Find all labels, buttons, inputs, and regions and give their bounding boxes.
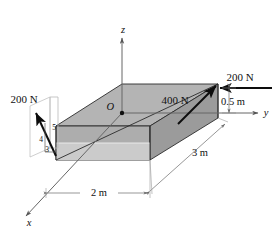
force-200n-right-label: 200 N	[226, 71, 253, 83]
x-axis-label: x	[26, 217, 32, 228]
force-400n-label: 400 N	[161, 94, 188, 106]
slope-label-vertical: 4	[39, 135, 43, 144]
mechanics-diagram: z y x O 200 N 400 N	[0, 0, 278, 236]
origin-label: O	[106, 101, 114, 112]
slope-label-hypotenuse: 5	[52, 123, 56, 132]
origin-dot	[120, 111, 124, 115]
dimension-height: 0.5 m	[221, 88, 245, 113]
figure-canvas: z y x O 200 N 400 N	[0, 0, 278, 236]
dimension-length-ext-far	[218, 118, 228, 122]
dimension-length-label: 3 m	[192, 147, 208, 158]
block-front-lower-strip	[56, 143, 150, 160]
force-200n-right: 200 N	[220, 71, 272, 88]
dimension-width: 2 m	[46, 160, 150, 199]
dimension-height-label: 0.5 m	[221, 96, 245, 107]
z-axis-label: z	[120, 24, 125, 35]
force-200n-left: 200 N 5 4 3	[10, 93, 58, 157]
y-axis-label: y	[263, 107, 269, 118]
dimension-width-label: 2 m	[91, 187, 107, 198]
slope-label-horizontal: 3	[45, 145, 49, 154]
force-200n-left-label: 200 N	[10, 93, 37, 105]
